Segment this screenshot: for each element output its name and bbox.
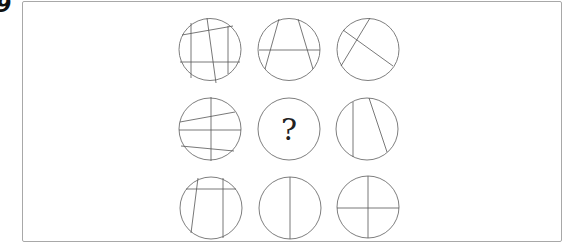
cell-r1c1 [179,18,241,83]
cell-circle [180,177,242,239]
cell-r3c3 [337,176,399,238]
cell-circle [258,19,320,81]
cell-circle [179,19,241,81]
cell-r1c3 [337,18,399,81]
cell-r2c1 [179,97,241,161]
cell-r3c1 [180,177,242,239]
cell-r2c2-missing: ? [258,98,320,160]
cell-r1c2 [258,19,320,81]
cell-circle [336,98,398,160]
cell-r2c3 [336,98,398,160]
question-mark: ? [281,112,297,147]
cell-r3c2 [259,177,321,239]
cell-circle [337,19,399,81]
